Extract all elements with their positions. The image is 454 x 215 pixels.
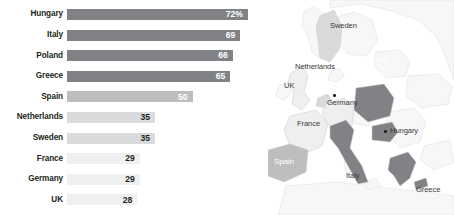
bar-label-netherlands: Netherlands (0, 113, 67, 121)
europe-choropleth-map: Sweden Netherlands UK Poland Germany Fra… (268, 0, 454, 215)
bar-row-sweden: Sweden35 (0, 133, 268, 144)
bar-value-greece: 65 (216, 72, 231, 81)
bar-chart: Hungary72%Italy69Poland66Greece65Spain50… (0, 0, 268, 215)
bar-fill-sweden: 35 (67, 133, 155, 144)
bar-track: 29 (67, 153, 268, 164)
infographic-bar-chart-and-map: Hungary72%Italy69Poland66Greece65Spain50… (0, 0, 454, 215)
bar-fill-germany: 29 (67, 174, 140, 185)
map-label-poland: Poland (363, 56, 387, 64)
bar-track: 69 (67, 30, 268, 41)
bar-track: 28 (67, 194, 268, 205)
bar-label-spain: Spain (0, 93, 67, 101)
bar-row-greece: Greece65 (0, 71, 268, 82)
bar-value-hungary: 72% (226, 10, 248, 19)
bar-value-spain: 50 (178, 93, 193, 102)
bar-fill-netherlands: 35 (67, 112, 155, 123)
map-graphic (268, 0, 454, 215)
bar-row-france: France29 (0, 153, 268, 164)
bar-track: 35 (67, 133, 268, 144)
bar-label-sweden: Sweden (0, 134, 67, 142)
bar-row-poland: Poland66 (0, 50, 268, 61)
bar-fill-poland: 66 (67, 50, 233, 61)
bar-label-poland: Poland (0, 52, 67, 60)
bar-label-hungary: Hungary (0, 10, 67, 18)
map-label-france: France (297, 120, 320, 128)
map-label-greece: Greece (416, 186, 440, 194)
map-country-sweden (316, 10, 342, 62)
bar-fill-greece: 65 (67, 71, 230, 82)
bar-row-germany: Germany29 (0, 174, 268, 185)
map-label-spain: Spain (274, 158, 294, 166)
bar-track: 66 (67, 50, 268, 61)
bar-track: 65 (67, 71, 268, 82)
bar-fill-uk: 28 (67, 194, 137, 205)
bar-label-france: France (0, 155, 67, 163)
bar-value-netherlands: 35 (140, 113, 155, 122)
bar-row-uk: UK28 (0, 194, 268, 205)
bar-value-germany: 29 (125, 175, 140, 184)
bar-row-spain: Spain50 (0, 91, 268, 102)
map-label-sweden: Sweden (330, 22, 357, 30)
map-marker-budapest (384, 130, 387, 133)
bar-value-france: 29 (125, 154, 140, 163)
bar-value-uk: 28 (123, 196, 138, 205)
bar-label-italy: Italy (0, 31, 67, 39)
bar-label-germany: Germany (0, 175, 67, 183)
bar-fill-italy: 69 (67, 30, 240, 41)
map-country-greece (388, 152, 416, 186)
bar-row-hungary: Hungary72% (0, 9, 268, 20)
bar-value-sweden: 35 (140, 134, 155, 143)
bar-row-netherlands: Netherlands35 (0, 112, 268, 123)
map-label-italy: Italy (346, 172, 359, 180)
bar-label-uk: UK (0, 196, 67, 204)
bar-track: 50 (67, 91, 268, 102)
bar-track: 35 (67, 112, 268, 123)
map-label-uk: UK (284, 82, 294, 90)
bar-label-greece: Greece (0, 72, 67, 80)
bar-row-italy: Italy69 (0, 30, 268, 41)
bar-track: 72% (67, 9, 268, 20)
bar-value-poland: 66 (218, 51, 233, 60)
bar-fill-france: 29 (67, 153, 140, 164)
bar-fill-spain: 50 (67, 91, 193, 102)
bar-fill-hungary: 72% (67, 9, 248, 20)
map-label-hungary: Hungary (390, 127, 418, 135)
map-label-germany: Germany (327, 99, 358, 107)
bar-track: 29 (67, 174, 268, 185)
bar-value-italy: 69 (226, 31, 241, 40)
map-marker-berlin (333, 94, 336, 97)
map-label-netherlands: Netherlands (295, 63, 335, 71)
